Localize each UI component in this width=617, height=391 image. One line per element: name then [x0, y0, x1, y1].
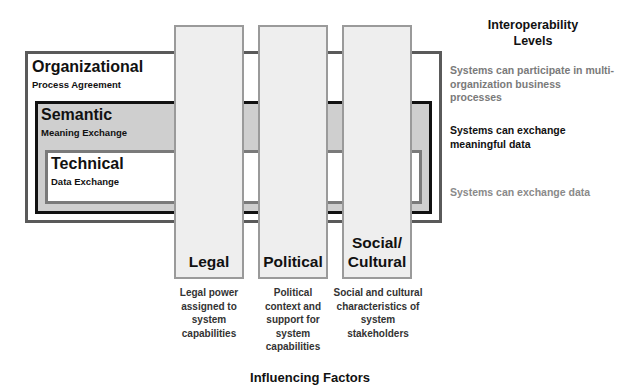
factor-description-political: Political context and support for system… [251, 286, 335, 354]
interoperability-levels-header: Interoperability Levels [448, 17, 617, 49]
influencing-factors-header: Influencing Factors [190, 370, 430, 385]
level-description-semantic: Systems can exchange meaningful data [450, 124, 615, 151]
factor-column-political: Political [258, 25, 328, 279]
factor-column-social: Social/ Cultural [342, 25, 412, 279]
factor-label-legal: Legal [189, 252, 229, 271]
factor-label-social: Social/ Cultural [347, 233, 407, 271]
factor-description-social: Social and cultural characteristics of s… [333, 286, 423, 340]
factor-description-legal: Legal power assigned to system capabilit… [167, 286, 251, 340]
factor-column-legal: Legal [174, 25, 244, 279]
level-description-organizational: Systems can participate in multi-organiz… [450, 64, 615, 105]
level-description-technical: Systems can exchange data [450, 186, 615, 200]
factor-label-political: Political [263, 252, 322, 271]
